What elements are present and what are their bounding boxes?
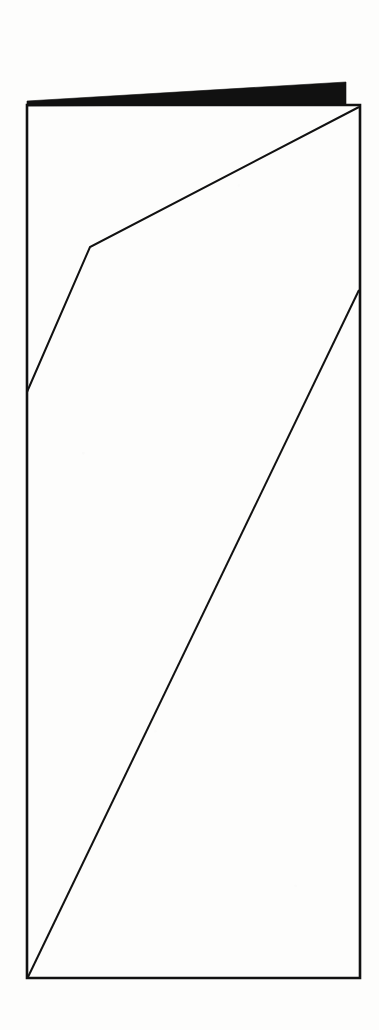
figure-root — [0, 0, 379, 1030]
solid-black-wedge — [27, 82, 346, 106]
long-diagonal-line — [28, 290, 359, 977]
line-drawing-canvas — [0, 0, 379, 1030]
outer-rectangle — [27, 105, 360, 978]
upper-bent-polyline — [27, 107, 359, 392]
